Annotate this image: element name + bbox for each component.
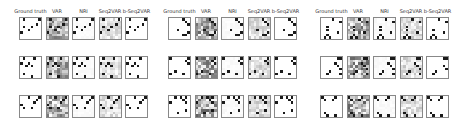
matrix-panel bbox=[274, 95, 297, 118]
matrix-panel bbox=[19, 95, 42, 118]
matrix-panel bbox=[168, 17, 191, 40]
matrix-panel bbox=[426, 17, 449, 40]
matrix-panel bbox=[195, 95, 218, 118]
matrix-panel bbox=[320, 95, 343, 118]
matrix-panel bbox=[46, 95, 69, 118]
matrix-panel bbox=[19, 56, 42, 79]
matrix-panel bbox=[72, 56, 95, 79]
matrix-panel bbox=[99, 56, 122, 79]
matrix-panel bbox=[274, 56, 297, 79]
matrix-panel bbox=[99, 95, 122, 118]
column-header: VAR bbox=[52, 8, 62, 14]
matrix-panel bbox=[347, 95, 370, 118]
matrix-panel bbox=[373, 95, 396, 118]
matrix-panel bbox=[221, 95, 244, 118]
matrix-panel bbox=[168, 56, 191, 79]
matrix-panel bbox=[248, 17, 271, 40]
column-header: NRI bbox=[380, 8, 389, 14]
column-header: NRI bbox=[79, 8, 88, 14]
matrix-panel bbox=[221, 56, 244, 79]
column-header: b-Seq2VAR bbox=[424, 8, 452, 14]
column-header: VAR bbox=[353, 8, 363, 14]
column-header: Seq2VAR bbox=[248, 8, 271, 14]
matrix-panel bbox=[46, 56, 69, 79]
column-header: Seq2VAR bbox=[400, 8, 423, 14]
matrix-panel bbox=[274, 17, 297, 40]
matrix-panel bbox=[168, 95, 191, 118]
matrix-panel bbox=[373, 17, 396, 40]
matrix-panel bbox=[400, 56, 423, 79]
matrix-panel bbox=[125, 95, 148, 118]
matrix-panel bbox=[99, 17, 122, 40]
matrix-panel bbox=[320, 56, 343, 79]
matrix-panel bbox=[373, 56, 396, 79]
column-header: Ground truth bbox=[163, 8, 195, 14]
matrix-panel bbox=[347, 56, 370, 79]
column-header: b-Seq2VAR bbox=[272, 8, 300, 14]
matrix-panel bbox=[125, 56, 148, 79]
matrix-panel bbox=[400, 95, 423, 118]
matrix-panel bbox=[320, 17, 343, 40]
column-header: b-Seq2VAR bbox=[123, 8, 151, 14]
matrix-panel bbox=[72, 95, 95, 118]
matrix-panel bbox=[72, 17, 95, 40]
matrix-panel bbox=[347, 17, 370, 40]
matrix-panel bbox=[19, 17, 42, 40]
column-header: VAR bbox=[201, 8, 211, 14]
matrix-panel bbox=[125, 17, 148, 40]
matrix-panel bbox=[426, 56, 449, 79]
column-header: Ground truth bbox=[315, 8, 347, 14]
column-header: Ground truth bbox=[14, 8, 46, 14]
matrix-panel bbox=[248, 95, 271, 118]
column-header: Seq2VAR bbox=[99, 8, 122, 14]
column-header: NRI bbox=[228, 8, 237, 14]
matrix-panel bbox=[426, 95, 449, 118]
matrix-panel bbox=[195, 56, 218, 79]
matrix-panel bbox=[248, 56, 271, 79]
matrix-panel bbox=[46, 17, 69, 40]
matrix-panel bbox=[221, 17, 244, 40]
matrix-panel bbox=[400, 17, 423, 40]
matrix-panel bbox=[195, 17, 218, 40]
